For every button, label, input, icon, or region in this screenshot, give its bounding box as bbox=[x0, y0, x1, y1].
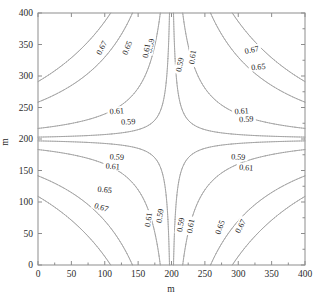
y-axis-title: m bbox=[0, 138, 10, 146]
contour-line-0p59 bbox=[38, 13, 305, 265]
contour-label-text: 0.61 bbox=[239, 163, 254, 173]
contour-label-text: 0.59 bbox=[155, 208, 166, 223]
x-axis-title: m bbox=[167, 284, 175, 294]
plot-canvas: 050100150200250300350400 050100150200250… bbox=[0, 0, 318, 303]
contour-label-text: 0.59 bbox=[121, 117, 136, 127]
contour-label-text: 0.67 bbox=[244, 44, 260, 56]
contour-line-group bbox=[38, 13, 305, 265]
x-tick-label: 300 bbox=[231, 269, 246, 279]
x-tick-label: 50 bbox=[67, 269, 77, 279]
y-tick-label: 300 bbox=[19, 71, 34, 81]
contour-label: 0.65 bbox=[119, 37, 135, 58]
contour-label: 0.61 bbox=[187, 47, 199, 67]
x-tick-label: 100 bbox=[98, 269, 113, 279]
contour-line-0p65 bbox=[38, 13, 305, 265]
contour-label-text: 0.65 bbox=[251, 62, 266, 72]
x-tick-label: 350 bbox=[265, 269, 280, 279]
contour-label-text: 0.61 bbox=[141, 43, 152, 59]
x-tick-label: 200 bbox=[164, 269, 179, 279]
y-tick-label: 200 bbox=[19, 134, 34, 144]
contour-label: 0.59 bbox=[236, 114, 256, 125]
contour-label-text: 0.61 bbox=[143, 212, 154, 227]
contour-label: 0.61 bbox=[103, 161, 123, 172]
contour-label: 0.61 bbox=[143, 210, 155, 230]
plot-frame bbox=[38, 13, 305, 265]
contour-label-text: 0.61 bbox=[185, 218, 196, 234]
contour-label: 0.67 bbox=[91, 200, 112, 215]
y-tick-label: 350 bbox=[19, 40, 34, 50]
x-tick-labels: 050100150200250300350400 bbox=[36, 269, 313, 279]
y-tick-labels: 050100150200250300350400 bbox=[19, 8, 34, 270]
contour-label: 0.65 bbox=[212, 217, 227, 238]
y-tick-label: 50 bbox=[24, 229, 34, 239]
contour-label-text: 0.65 bbox=[213, 219, 226, 236]
contour-label: 0.61 bbox=[107, 106, 127, 117]
contour-plot-figure: 050100150200250300350400 050100150200250… bbox=[0, 0, 318, 303]
tick-marks bbox=[38, 13, 305, 265]
contour-level-labels: 0.670.650.590.610.590.610.670.650.610.59… bbox=[91, 36, 268, 238]
y-tick-label: 100 bbox=[19, 197, 34, 207]
y-tick-label: 250 bbox=[19, 103, 34, 113]
y-tick-label: 150 bbox=[19, 166, 34, 176]
contour-label-text: 0.59 bbox=[231, 152, 246, 162]
y-tick-label: 400 bbox=[19, 8, 34, 18]
contour-label-text: 0.67 bbox=[93, 201, 109, 214]
contour-label-text: 0.59 bbox=[174, 57, 186, 73]
axes-frame bbox=[38, 13, 305, 265]
contour-label-text: 0.61 bbox=[105, 162, 120, 172]
contour-label-text: 0.65 bbox=[97, 185, 112, 195]
contour-label: 0.59 bbox=[154, 206, 166, 226]
contour-label: 0.59 bbox=[118, 117, 138, 128]
contour-label: 0.67 bbox=[232, 216, 249, 237]
contour-line-0p61 bbox=[38, 13, 305, 265]
contour-label: 0.65 bbox=[248, 61, 268, 72]
contour-label: 0.61 bbox=[236, 162, 256, 173]
contour-label: 0.61 bbox=[140, 41, 152, 61]
x-tick-label: 250 bbox=[198, 269, 213, 279]
contour-label: 0.67 bbox=[241, 43, 261, 56]
contour-label: 0.67 bbox=[93, 37, 110, 58]
contour-label-text: 0.59 bbox=[109, 152, 124, 162]
contour-label: 0.59 bbox=[228, 152, 248, 163]
x-tick-label: 400 bbox=[298, 269, 313, 279]
contour-label-text: 0.59 bbox=[239, 114, 254, 124]
x-tick-label: 0 bbox=[36, 269, 41, 279]
contour-label: 0.59 bbox=[107, 152, 127, 163]
contour-label: 0.65 bbox=[95, 184, 115, 195]
contour-line-0p67 bbox=[38, 13, 305, 265]
contour-label-text: 0.61 bbox=[109, 106, 124, 116]
contour-label-text: 0.61 bbox=[187, 49, 198, 64]
y-tick-label: 0 bbox=[28, 260, 33, 270]
x-tick-label: 150 bbox=[131, 269, 146, 279]
